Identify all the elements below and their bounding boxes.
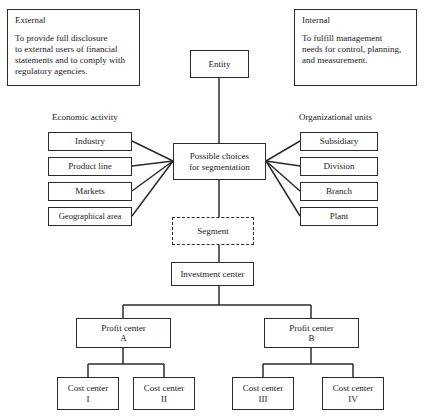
node-entity[interactable]: Entity [190,50,249,78]
node-geographical-area-label: Geographical area [59,212,122,222]
node-geographical-area[interactable]: Geographical area [48,207,132,226]
node-cost-center-iii[interactable]: Cost center III [232,377,294,410]
node-possible-choices[interactable]: Possible choices for segmentation [173,143,266,180]
node-product-line[interactable]: Product line [48,157,132,176]
node-product-line-label: Product line [68,161,112,171]
node-industry[interactable]: Industry [48,132,132,151]
node-cost-center-i[interactable]: Cost center I [57,377,119,410]
group-label-organizational-units: Organizational units [299,112,372,122]
node-plant[interactable]: Plant [300,207,378,226]
node-cost-center-ii-label: Cost center II [144,383,185,404]
group-label-economic-activity: Economic activity [52,112,118,122]
node-cost-center-iii-label: Cost center III [243,383,284,404]
node-profit-center-a[interactable]: Profit center A [76,318,171,348]
node-profit-center-b[interactable]: Profit center B [264,318,359,348]
node-branch-label: Branch [326,186,352,196]
node-profit-center-a-label: Profit center A [101,323,146,344]
note-internal-title: Internal [302,15,409,26]
note-internal: Internal To fulfill management needs for… [294,9,417,86]
node-markets-label: Markets [75,186,105,196]
node-profit-center-b-label: Profit center B [289,323,334,344]
node-branch[interactable]: Branch [300,182,378,201]
node-investment-center-label: Investment center [180,269,244,279]
note-external-body: To provide full disclosure to external u… [15,33,132,77]
node-cost-center-iv[interactable]: Cost center IV [322,377,384,410]
node-possible-choices-label: Possible choices for segmentation [189,151,250,172]
node-segment-label: Segment [197,226,229,236]
node-division-label: Division [323,161,354,171]
node-markets[interactable]: Markets [48,182,132,201]
node-cost-center-ii[interactable]: Cost center II [133,377,195,410]
node-investment-center[interactable]: Investment center [171,262,254,286]
node-industry-label: Industry [75,136,105,146]
note-internal-body: To fulfill management needs for control,… [302,33,409,66]
note-external-title: External [15,15,132,26]
node-division[interactable]: Division [300,157,378,176]
node-entity-label: Entity [209,59,231,69]
node-plant-label: Plant [330,211,349,221]
note-external: External To provide full disclosure to e… [7,9,140,86]
node-cost-center-i-label: Cost center I [68,383,109,404]
diagram-canvas: External To provide full disclosure to e… [0,0,424,418]
node-cost-center-iv-label: Cost center IV [333,383,374,404]
node-subsidiary[interactable]: Subsidiary [300,132,378,151]
node-subsidiary-label: Subsidiary [320,136,359,146]
node-segment[interactable]: Segment [172,217,254,245]
